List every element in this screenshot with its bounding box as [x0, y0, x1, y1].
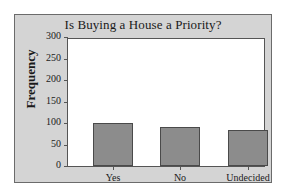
- x-tick-mark: [180, 167, 181, 170]
- bar-undecided: [228, 130, 268, 166]
- x-axis: Yes No Undecided: [68, 167, 264, 187]
- y-tick-label: 0: [56, 159, 61, 170]
- y-tick-label: 100: [46, 116, 61, 127]
- y-tick-label: 250: [46, 52, 61, 63]
- x-axis-label-yes: Yes: [106, 172, 121, 183]
- chart-figure: Is Buying a House a Priority? Frequency …: [14, 14, 272, 183]
- y-tick-label: 300: [46, 30, 61, 41]
- x-tick-mark: [113, 167, 114, 170]
- bar-no: [160, 127, 200, 166]
- y-tick-label: 150: [46, 95, 61, 106]
- y-axis: 0 50 100 150 200 250 300: [15, 38, 68, 167]
- y-tick-label: 200: [46, 73, 61, 84]
- x-axis-label-undecided: Undecided: [226, 172, 269, 183]
- bars-layer: [68, 39, 264, 166]
- bar-yes: [93, 123, 133, 166]
- x-axis-label-no: No: [174, 172, 186, 183]
- y-tick-label: 50: [51, 138, 61, 149]
- x-tick-mark: [248, 167, 249, 170]
